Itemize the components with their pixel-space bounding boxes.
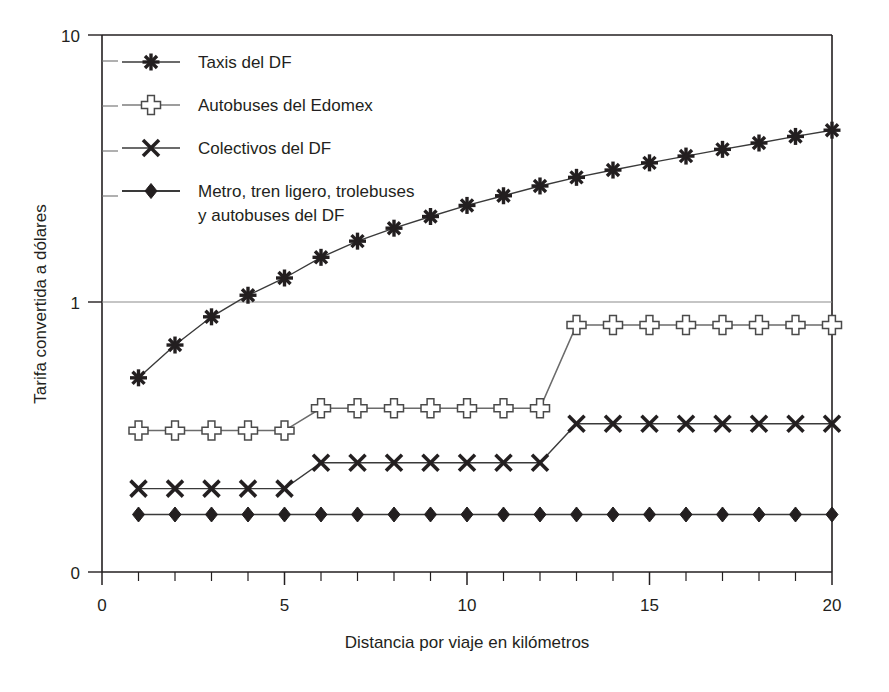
data-point-asterisk-icon — [824, 122, 841, 139]
data-point-asterisk-icon — [714, 141, 731, 158]
x-tick-label: 10 — [458, 596, 477, 615]
data-point-asterisk-icon — [495, 187, 512, 204]
y-tick-label-0: 0 — [71, 564, 80, 583]
data-point-asterisk-icon — [349, 233, 366, 250]
legend-label: Taxis del DF — [198, 53, 292, 72]
legend-label: Autobuses del Edomex — [198, 96, 373, 115]
data-point-asterisk-icon — [568, 169, 585, 186]
legend-label: Colectivos del DF — [198, 139, 331, 158]
data-point-asterisk-icon — [641, 154, 658, 171]
data-point-asterisk-icon — [422, 208, 439, 225]
data-point-asterisk-icon — [240, 287, 257, 304]
data-point-asterisk-icon — [532, 177, 549, 194]
data-point-asterisk-icon — [751, 135, 768, 152]
y-axis-title: Tarifa convertida a dólares — [31, 204, 50, 403]
data-point-asterisk-icon — [787, 128, 804, 145]
x-tick-label: 5 — [280, 596, 289, 615]
data-point-asterisk-icon — [459, 197, 476, 214]
x-tick-label: 20 — [823, 596, 842, 615]
legend-label-line2: y autobuses del DF — [198, 206, 344, 225]
x-tick-label: 0 — [97, 596, 106, 615]
data-point-asterisk-icon — [143, 54, 160, 71]
x-axis-title: Distancia por viaje en kilómetros — [345, 633, 590, 652]
data-point-asterisk-icon — [276, 269, 293, 286]
chart-background — [0, 0, 889, 692]
data-point-asterisk-icon — [130, 369, 147, 386]
data-point-asterisk-icon — [167, 337, 184, 354]
data-point-asterisk-icon — [605, 162, 622, 179]
data-point-asterisk-icon — [678, 148, 695, 165]
chart-figure: 10 1 0 Tarifa convertida a dólares 05101… — [0, 0, 889, 692]
x-tick-label: 15 — [640, 596, 659, 615]
y-tick-label-1: 1 — [71, 294, 80, 313]
y-tick-label-10: 10 — [61, 27, 80, 46]
legend-label: Metro, tren ligero, trolebuses — [198, 182, 414, 201]
data-point-asterisk-icon — [313, 249, 330, 266]
data-point-asterisk-icon — [203, 308, 220, 325]
data-point-asterisk-icon — [386, 220, 403, 237]
